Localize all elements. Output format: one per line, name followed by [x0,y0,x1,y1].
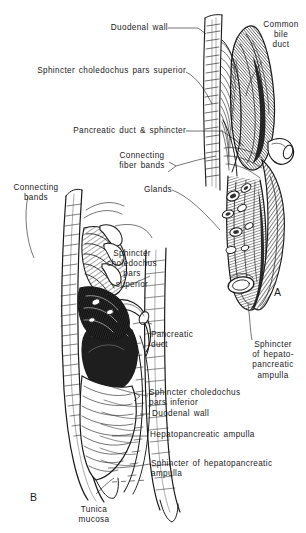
leader-connecting-bands [26,196,34,258]
figure-a-artwork [204,15,295,311]
leader-sphincter-pars-superior-top [186,72,212,104]
label-common-bile-duct: Common bile duct [258,20,304,51]
label-hepatopancreatic-ampulla: Hepatopancreatic ampulla [150,430,298,440]
label-tunica-mucosa: Tunica mucosa [64,505,124,525]
label-sphincter-of-hepatopancreatic-ampulla-a: Sphincter of hepato- pancreatic ampulla [243,340,303,381]
label-sphincter-choledochus-pars-superior-b: Sphincter choledochus pars superior [100,249,164,290]
leader-glands [172,190,220,230]
label-glands: Glands [112,185,172,195]
figure-b-upper-strands [84,203,124,218]
figure-label-a: A [274,286,281,298]
leader-connecting-fiber-bands [176,156,216,166]
label-sphincter-choledochus-pars-inferior: Sphincter choledochus pars inferior [149,388,301,408]
label-pancreatic-duct-and-sphincter: Pancreatic duct & sphincter [50,126,186,136]
figure-a-duct-stub [268,139,294,165]
anatomical-figure-page: Duodenal wall Sphincter choledochus pars… [0,0,306,533]
leader-duodenal-wall-top [168,28,206,34]
label-duodenal-wall-b: Duodenal wall [152,409,252,419]
label-connecting-fiber-bands: Connecting fiber bands [108,151,176,171]
label-sphincter-of-hepatopancreatic-ampulla-b: Sphincter of hepatopancreatic ampulla [151,459,305,479]
label-sphincter-choledochus-pars-superior-top: Sphincter choledochus pars superior [20,66,186,76]
label-duodenal-wall-top: Duodenal wall [84,23,168,33]
figure-b-tunica-mucosa [80,376,136,498]
label-connecting-bands: Connecting bands [6,183,66,203]
figure-a-duodenal-wall [204,15,222,190]
label-pancreatic-duct: Pancreatic duct [151,330,213,350]
figure-label-b: B [30,491,37,503]
